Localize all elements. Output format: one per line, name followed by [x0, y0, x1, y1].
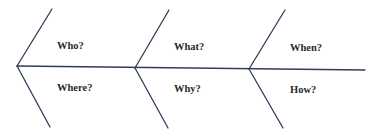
bone-why — [135, 68, 168, 128]
bone-how — [249, 69, 283, 128]
spine-line — [17, 66, 365, 70]
label-what: What? — [174, 41, 204, 52]
fishbone-diagram: Who? Where? What? Why? When? How? — [0, 0, 375, 136]
label-how: How? — [290, 84, 316, 95]
label-who: Who? — [57, 40, 84, 51]
label-why: Why? — [174, 83, 201, 94]
label-where: Where? — [57, 82, 92, 93]
bone-what — [135, 10, 169, 68]
fishbone-lines — [0, 0, 375, 136]
label-when: When? — [290, 42, 322, 53]
bone-where — [17, 66, 50, 127]
bone-when — [249, 10, 285, 69]
bone-who — [17, 9, 52, 66]
